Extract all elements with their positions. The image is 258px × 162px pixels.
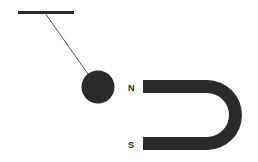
north-pole-label: N — [128, 83, 135, 93]
support-bar — [18, 11, 74, 14]
south-pole-label: S — [128, 140, 134, 150]
horseshoe-magnet — [143, 80, 242, 150]
pendulum-magnet-diagram: N S — [0, 0, 258, 162]
pendulum-string — [45, 13, 88, 74]
pendulum-ball — [82, 71, 115, 104]
